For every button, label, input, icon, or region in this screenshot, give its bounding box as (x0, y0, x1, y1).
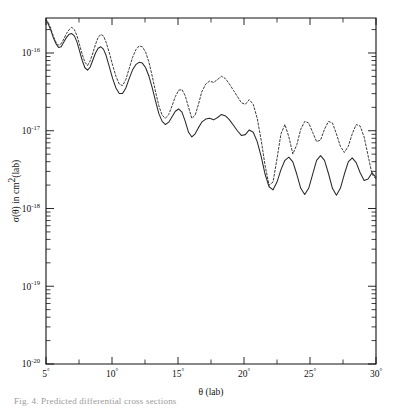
y-tick-label: 10-18 (22, 202, 41, 214)
x-tick-label: 20° (238, 367, 251, 379)
y-axis-tick-labels: 10-1610-1710-1810-1910-20 (22, 46, 41, 369)
y-tick-label: 10-19 (22, 279, 41, 291)
y-axis-title: σ(θ) in cm2(lab) (7, 160, 22, 222)
figure-caption: Fig. 4. Predicted differential cross sec… (14, 398, 177, 406)
figure-container: 5°10°15°20°25°30° 10-1610-1710-1810-1910… (0, 0, 401, 409)
plot-frame (46, 18, 376, 364)
caption-strip: Fig. 4. Predicted differential cross sec… (0, 398, 401, 409)
x-axis-ticks (46, 18, 376, 364)
y-tick-label: 10-16 (22, 46, 41, 58)
y-tick-label: 10-17 (22, 124, 41, 136)
x-axis-tick-labels: 5°10°15°20°25°30° (42, 367, 382, 379)
y-tick-label: 10-20 (22, 357, 41, 369)
dashed-curve (46, 20, 376, 186)
x-tick-label: 30° (370, 367, 383, 379)
cross-section-chart: 5°10°15°20°25°30° 10-1610-1710-1810-1910… (0, 0, 401, 409)
x-tick-label: 5° (42, 367, 50, 379)
y-axis-ticks (46, 30, 376, 364)
x-tick-label: 10° (106, 367, 119, 379)
x-tick-label: 25° (304, 367, 317, 379)
x-tick-label: 15° (172, 367, 185, 379)
x-axis-title: θ (lab) (199, 387, 224, 398)
solid-curve (46, 20, 376, 195)
data-curves (46, 20, 376, 196)
